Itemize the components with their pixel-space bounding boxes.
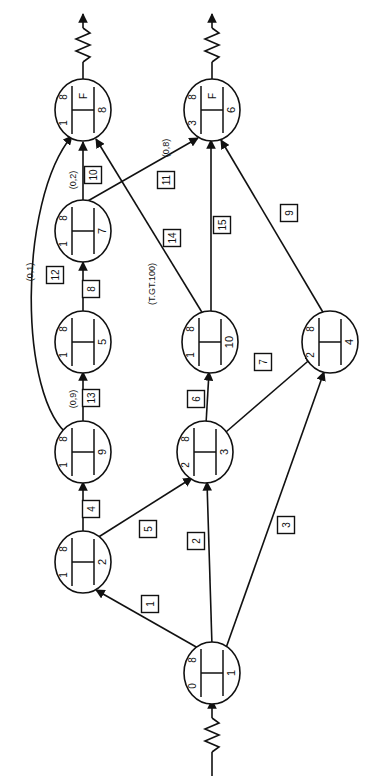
node-left-value: 1 — [58, 120, 69, 126]
edge-label-15: 15 — [214, 217, 231, 234]
node-left-value: 1 — [58, 241, 69, 247]
edge-label-text: 13 — [86, 392, 97, 404]
edge-4-to-6 — [221, 140, 324, 314]
edge-label-text: 6 — [191, 396, 202, 402]
edge-label-8: 8 — [83, 281, 100, 298]
edge-1-to-4 — [226, 372, 324, 648]
edge-label-14: 14 — [164, 230, 181, 247]
node-left-value: 1 — [58, 572, 69, 578]
edge-1-to-3 — [207, 482, 212, 646]
node-id-label: 7 — [96, 228, 108, 234]
node-3[interactable]: 328 — [177, 421, 233, 483]
node-id-label: 6 — [225, 107, 237, 113]
diagram-canvas: 1082183284285186F387188F189181018 123456… — [0, 0, 370, 778]
edge-label-text: 11 — [161, 174, 172, 185]
edge-label-4: 4 — [83, 501, 100, 518]
node-flag-label: F — [207, 93, 218, 99]
condition-label-c3: (0,9) — [68, 390, 78, 409]
node-id-label: 1 — [225, 670, 237, 676]
exit-6-squiggle — [205, 28, 219, 62]
condition-label-c4: (0,8) — [161, 139, 171, 158]
edge-label-text: 14 — [167, 232, 178, 244]
edge-label-text: 2 — [191, 538, 202, 544]
edge-7-to-6 — [86, 138, 198, 202]
edge-3-to-10 — [206, 372, 209, 424]
edge-label-12: 12 — [47, 267, 64, 284]
edge-label-1: 1 — [142, 596, 159, 613]
node-right-value: 8 — [58, 326, 69, 332]
edge-label-text: 15 — [217, 219, 228, 231]
node-left-value: 2 — [305, 352, 316, 358]
node-6[interactable]: 6F38 — [184, 79, 240, 141]
node-left-value: 1 — [58, 352, 69, 358]
edge-label-text: 3 — [281, 522, 292, 528]
edge-label-text: 7 — [258, 359, 269, 365]
edge-label-11: 11 — [158, 172, 175, 189]
edge-label-3: 3 — [278, 517, 295, 534]
node-10[interactable]: 1018 — [182, 311, 238, 373]
node-left-value: 3 — [187, 120, 198, 126]
node-id-label: 9 — [96, 449, 108, 455]
node-5[interactable]: 518 — [55, 311, 111, 373]
node-left-value: 1 — [185, 352, 196, 358]
entry-squiggle — [205, 718, 219, 752]
exit-8-squiggle — [76, 28, 90, 62]
edge-label-10: 10 — [85, 167, 102, 184]
edge-9-to-8-curve — [31, 136, 72, 436]
node-left-value: 2 — [180, 462, 191, 468]
node-right-value: 8 — [187, 657, 198, 663]
node-flag-label: F — [78, 93, 89, 99]
condition-label-c2: (0,2) — [68, 171, 78, 190]
edge-label-6: 6 — [188, 391, 205, 408]
node-right-value: 8 — [180, 436, 191, 442]
edge-label-5: 5 — [140, 521, 157, 538]
node-1[interactable]: 108 — [184, 642, 240, 704]
node-7[interactable]: 718 — [55, 200, 111, 262]
node-id-label: 4 — [343, 339, 355, 345]
node-id-label: 8 — [96, 107, 108, 113]
node-4[interactable]: 428 — [302, 311, 358, 373]
node-right-value: 8 — [58, 546, 69, 552]
edge-label-text: 1 — [145, 601, 156, 607]
node-id-label: 10 — [223, 336, 235, 348]
edge-label-text: 10 — [88, 169, 99, 181]
edge-label-9: 9 — [281, 205, 298, 222]
node-right-value: 8 — [58, 436, 69, 442]
node-2[interactable]: 218 — [55, 531, 111, 593]
node-right-value: 8 — [185, 326, 196, 332]
edge-label-text: 5 — [143, 526, 154, 532]
node-right-value: 8 — [58, 215, 69, 221]
node-9[interactable]: 918 — [55, 421, 111, 483]
node-right-value: 8 — [187, 94, 198, 100]
edge-label-7: 7 — [255, 354, 272, 371]
node-left-value: 0 — [187, 683, 198, 689]
edge-label-text: 4 — [86, 506, 97, 512]
node-id-label: 3 — [218, 449, 230, 455]
condition-label-c1: (0,1) — [25, 263, 35, 282]
node-8[interactable]: 8F18 — [55, 79, 111, 141]
condition-label-c5: (T.GT.100) — [147, 263, 157, 305]
node-id-label: 5 — [96, 339, 108, 345]
edge-label-2: 2 — [188, 533, 205, 550]
network-diagram-svg: 1082183284285186F387188F189181018 123456… — [0, 0, 370, 778]
node-left-value: 1 — [58, 462, 69, 468]
edge-label-13: 13 — [83, 390, 100, 407]
edge-label-text: 12 — [50, 269, 61, 281]
edge-label-text: 9 — [284, 210, 295, 216]
node-right-value: 8 — [305, 326, 316, 332]
node-id-label: 2 — [96, 559, 108, 565]
node-right-value: 8 — [58, 94, 69, 100]
edge-label-text: 8 — [86, 286, 97, 292]
